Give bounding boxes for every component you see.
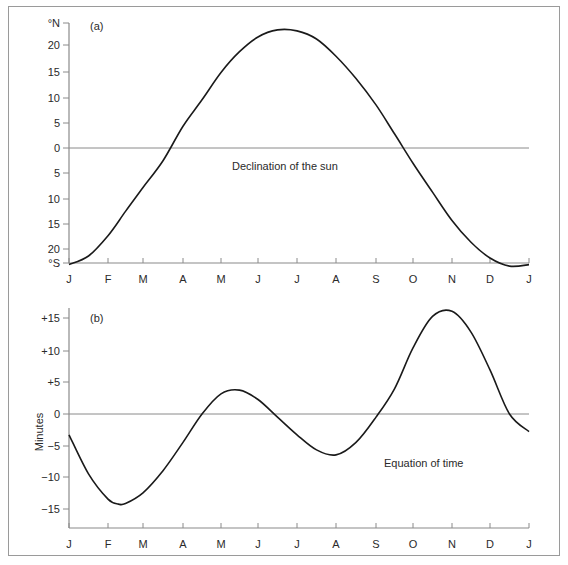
x-tick-label: F — [105, 273, 112, 285]
x-tick-label: J — [255, 538, 261, 550]
x-tick-label: M — [138, 538, 147, 550]
x-tick-label: M — [216, 273, 225, 285]
y-axis-title: Minutes — [33, 412, 45, 451]
y-tick-label: 15 — [48, 218, 60, 230]
x-tick-label: S — [372, 538, 379, 550]
y-tick-label: 0 — [54, 142, 60, 154]
x-tick-label: J — [66, 538, 72, 550]
x-tick-label: A — [332, 538, 340, 550]
x-tick-label: A — [179, 273, 187, 285]
x-tick-label: O — [409, 273, 418, 285]
x-tick-label: J — [66, 273, 72, 285]
y-tick-label: +5 — [47, 376, 60, 388]
x-tick-label: M — [216, 538, 225, 550]
x-tick-label: J — [294, 538, 300, 550]
figure: °N201510505101520°SJFMAMJJASONDJ(a)Decli… — [0, 0, 568, 565]
y-tick-label: 20 — [48, 39, 60, 51]
x-tick-label: J — [526, 273, 532, 285]
x-tick-label: F — [105, 538, 112, 550]
y-tick-label: +15 — [41, 312, 60, 324]
x-tick-label: A — [332, 273, 340, 285]
y-tick-label: 10 — [48, 92, 60, 104]
panel-label: (a) — [90, 20, 103, 32]
y-tick-label: +10 — [41, 345, 60, 357]
x-tick-label: M — [138, 273, 147, 285]
y-tick-label: −15 — [41, 503, 60, 515]
y-tick-label: °S — [48, 257, 60, 269]
panel-a-declination: °N201510505101520°SJFMAMJJASONDJ(a)Decli… — [48, 17, 532, 285]
x-tick-label: J — [294, 273, 300, 285]
x-tick-label: D — [486, 538, 494, 550]
y-tick-label: 10 — [48, 193, 60, 205]
y-tick-label: −5 — [47, 440, 60, 452]
panel-b-equation-of-time: +15+10+50−5−10−15JFMAMJJASONDJ(b)Equatio… — [41, 308, 531, 550]
y-tick-label: 5 — [54, 117, 60, 129]
series-caption: Equation of time — [384, 457, 464, 469]
x-tick-label: J — [526, 538, 532, 550]
y-tick-label: 15 — [48, 66, 60, 78]
x-tick-label: N — [448, 273, 456, 285]
x-tick-label: O — [409, 538, 418, 550]
y-tick-label: °N — [48, 17, 60, 29]
y-tick-label: 20 — [48, 243, 60, 255]
y-tick-label: 0 — [54, 408, 60, 420]
y-tick-label: −10 — [41, 471, 60, 483]
x-tick-label: N — [448, 538, 456, 550]
x-tick-label: D — [486, 273, 494, 285]
panel-label: (b) — [90, 312, 103, 324]
y-tick-label: 5 — [54, 167, 60, 179]
data-line — [69, 310, 529, 505]
x-tick-label: S — [372, 273, 379, 285]
series-caption: Declination of the sun — [232, 160, 338, 172]
x-tick-label: A — [179, 538, 187, 550]
x-tick-label: J — [255, 273, 261, 285]
